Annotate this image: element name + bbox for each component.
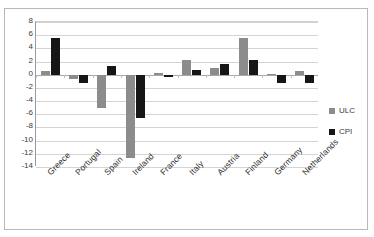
x-tick (36, 75, 37, 78)
y-tick-label: -8 (7, 122, 33, 130)
gridline (36, 48, 318, 49)
bar-cpi-greece (51, 38, 60, 74)
chart-container: 86420-2-4-6-8-10-12-14 GreecePortugalSpa… (4, 8, 368, 230)
y-tick-label: 8 (7, 17, 33, 25)
y-tick-label: -10 (7, 136, 33, 144)
bar-cpi-netherlands (305, 75, 314, 84)
bar-ulc-france (154, 73, 163, 75)
x-tick (64, 75, 65, 78)
plot-area (35, 21, 318, 166)
gridline (36, 88, 318, 89)
bar-ulc-greece (41, 71, 50, 75)
chart-legend: ULC CPI (329, 106, 373, 148)
gridline (36, 127, 318, 128)
bar-ulc-italy (182, 60, 191, 75)
y-tick-label: 0 (7, 70, 33, 78)
bar-cpi-germany (277, 75, 286, 83)
y-tick-label: 6 (7, 30, 33, 38)
bar-cpi-france (164, 75, 173, 78)
x-tick (149, 75, 150, 78)
y-tick-label: -2 (7, 83, 33, 91)
black-square-icon (329, 129, 335, 135)
bar-ulc-spain (97, 75, 106, 108)
bar-cpi-ireland (136, 75, 145, 118)
y-tick-label: -14 (7, 162, 33, 170)
x-tick (291, 75, 292, 78)
bar-ulc-netherlands (295, 71, 304, 75)
legend-item-cpi: CPI (329, 127, 373, 136)
gridline (36, 141, 318, 142)
bar-ulc-germany (267, 74, 276, 75)
bar-ulc-austria (210, 68, 219, 75)
legend-label-ulc: ULC (339, 107, 355, 115)
y-tick-label: -12 (7, 149, 33, 157)
y-tick-label: -4 (7, 96, 33, 104)
gridline (36, 101, 318, 102)
bar-cpi-finland (249, 60, 258, 75)
y-tick-label: 4 (7, 43, 33, 51)
bar-cpi-austria (220, 64, 229, 75)
x-tick (262, 75, 263, 78)
bar-cpi-spain (107, 66, 116, 75)
x-tick (93, 75, 94, 78)
x-tick (234, 75, 235, 78)
bar-cpi-portugal (79, 75, 88, 84)
y-tick-label: -6 (7, 109, 33, 117)
gridline (36, 62, 318, 63)
x-tick (121, 75, 122, 78)
gridline (36, 35, 318, 36)
bar-cpi-italy (192, 70, 201, 75)
gridline (36, 22, 318, 23)
y-tick-label: 2 (7, 57, 33, 65)
x-tick (178, 75, 179, 78)
gridline (36, 114, 318, 115)
legend-item-ulc: ULC (329, 106, 373, 115)
bar-ulc-finland (239, 38, 248, 74)
bar-ulc-ireland (126, 75, 135, 158)
x-axis: GreecePortugalSpainIrelandFranceItalyAus… (35, 166, 318, 228)
y-axis: 86420-2-4-6-8-10-12-14 (5, 21, 33, 166)
x-tick (206, 75, 207, 78)
bar-ulc-portugal (69, 75, 78, 80)
gray-square-icon (329, 108, 335, 114)
legend-label-cpi: CPI (339, 128, 352, 136)
